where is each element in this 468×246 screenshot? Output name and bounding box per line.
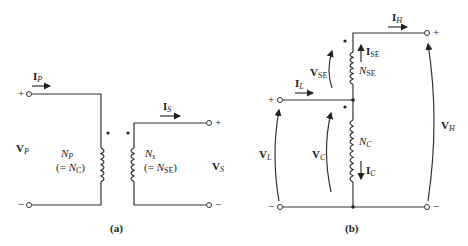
lv-minus-terminal xyxy=(278,205,283,210)
label-nc: NC xyxy=(358,135,372,149)
primary-plus-terminal xyxy=(27,92,32,97)
common-polarity-dot xyxy=(343,105,346,108)
lv-plus-sign: + xyxy=(268,93,274,105)
label-ise: ISE xyxy=(366,45,380,59)
secondary-coil xyxy=(131,148,134,182)
junction-dot xyxy=(351,98,355,102)
hv-plus-terminal xyxy=(425,31,430,36)
hv-plus-sign: + xyxy=(433,26,439,38)
label-np: NP xyxy=(60,147,73,161)
label-il: IL xyxy=(295,77,304,91)
autotransformer-diagram: + − + − IP IS VP VS NP (= NC) Ns (= NSE)… xyxy=(0,0,468,246)
secondary-minus-sign: − xyxy=(215,198,221,210)
secondary-bottom-wire xyxy=(134,182,206,205)
primary-plus-sign: + xyxy=(18,87,24,99)
label-is: IS xyxy=(163,100,171,114)
series-polarity-dot xyxy=(343,39,346,42)
diagram-a: + − + − IP IS VP VS NP (= NC) Ns (= NSE)… xyxy=(16,70,224,235)
common-coil xyxy=(350,120,353,182)
secondary-top-wire xyxy=(134,123,206,148)
diagram-b: + − + − IH ISE VSE NSE IL NC IC VC VL xyxy=(259,11,456,235)
label-vh: VH xyxy=(441,119,456,133)
label-ip: IP xyxy=(33,70,42,84)
hv-minus-terminal xyxy=(425,205,430,210)
label-nse: NSE xyxy=(358,64,376,78)
label-ns-equiv: (= NSE) xyxy=(144,161,177,175)
lv-plus-terminal xyxy=(278,98,283,103)
primary-coil xyxy=(101,148,104,182)
vc-arc xyxy=(327,113,332,192)
primary-minus-terminal xyxy=(27,203,32,208)
series-coil xyxy=(350,52,353,84)
secondary-polarity-dot xyxy=(126,131,129,134)
primary-bottom-wire xyxy=(32,182,101,205)
hv-minus-sign: − xyxy=(433,200,439,212)
bottom-junction-dot xyxy=(351,205,355,209)
lv-minus-sign: − xyxy=(268,200,274,212)
label-vl: VL xyxy=(259,148,272,162)
label-ic: IC xyxy=(366,164,376,178)
label-vp: VP xyxy=(16,142,29,156)
primary-minus-sign: − xyxy=(18,198,24,210)
secondary-plus-sign: + xyxy=(215,116,221,128)
primary-polarity-dot xyxy=(106,131,109,134)
vh-arc xyxy=(428,44,434,201)
vse-arc xyxy=(329,51,332,88)
label-np-equiv: (= NC) xyxy=(56,161,85,175)
label-vse: VSE xyxy=(310,66,327,80)
label-vc: VC xyxy=(312,148,326,162)
secondary-minus-terminal xyxy=(207,203,212,208)
hv-top-wire xyxy=(353,33,424,52)
primary-top-wire xyxy=(32,94,101,148)
label-vs: VS xyxy=(212,160,224,174)
vl-arc xyxy=(275,110,279,201)
secondary-plus-terminal xyxy=(207,121,212,126)
label-ns: Ns xyxy=(144,147,155,161)
caption-b: (b) xyxy=(345,222,359,235)
label-ih: IH xyxy=(392,11,403,25)
caption-a: (a) xyxy=(110,222,123,235)
